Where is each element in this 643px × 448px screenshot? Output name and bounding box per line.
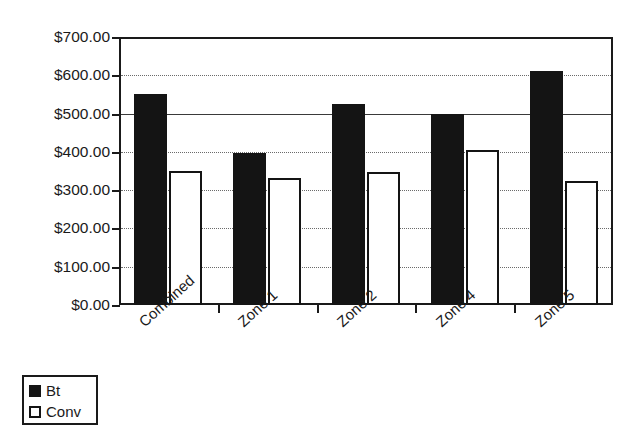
legend-swatch-icon <box>29 406 41 418</box>
y-tick-label: $0.00 <box>2 297 110 313</box>
x-tick-mark <box>514 305 516 313</box>
bar-bt-zone-4 <box>431 114 464 305</box>
bar-conv-zone-2 <box>367 172 400 305</box>
y-tick-label: $500.00 <box>2 106 110 122</box>
bar-bt-zone-5 <box>530 71 563 305</box>
bar-conv-zone-4 <box>466 150 499 305</box>
y-tick-label: $300.00 <box>2 182 110 198</box>
bar-conv-zone-1 <box>268 178 301 305</box>
legend-swatch-icon <box>29 385 41 397</box>
legend-label: Bt <box>46 383 60 398</box>
bar-bt-zone-1 <box>233 153 266 305</box>
bar-chart: $700.00$600.00$500.00$400.00$300.00$200.… <box>0 0 643 448</box>
y-tick-label: $700.00 <box>2 29 110 45</box>
bar-bt-combined <box>134 94 167 305</box>
y-tick-label: $200.00 <box>2 220 110 236</box>
legend-label: Conv <box>46 404 81 419</box>
x-tick-mark <box>415 305 417 313</box>
legend-entry-conv: Conv <box>29 401 96 422</box>
x-tick-mark <box>317 305 319 313</box>
y-tick-label: $400.00 <box>2 144 110 160</box>
legend-entry-bt: Bt <box>29 380 96 401</box>
bar-bt-zone-2 <box>332 104 365 305</box>
y-tick-label: $100.00 <box>2 259 110 275</box>
chart-legend: BtConv <box>22 375 98 425</box>
x-tick-mark <box>218 305 220 313</box>
bar-conv-zone-5 <box>565 181 598 305</box>
y-tick-label: $600.00 <box>2 67 110 83</box>
bars-layer <box>119 37 613 305</box>
